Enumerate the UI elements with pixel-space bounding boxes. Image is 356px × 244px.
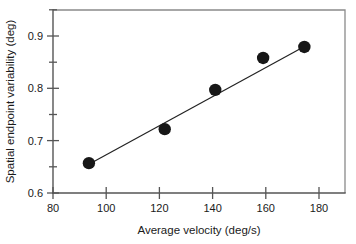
y-tick-label-2: 0.7: [28, 135, 43, 147]
x-tick-label-3: 140: [203, 202, 221, 214]
data-point: [159, 123, 171, 135]
x-tick-label-0: 80: [47, 202, 59, 214]
scatter-plot: 0.9 0.8 0.7 0.6 80 100 120 140 160 180 A…: [0, 0, 356, 244]
y-tick-label-1: 0.8: [28, 82, 43, 94]
x-tick-label-1: 100: [97, 202, 115, 214]
data-point: [257, 52, 269, 64]
data-point: [83, 157, 95, 169]
fit-line: [89, 46, 304, 164]
y-tick-label-0: 0.9: [28, 30, 43, 42]
plot-frame: [53, 10, 345, 193]
x-axis-title: Average velocity (deg/s): [137, 224, 260, 236]
data-point: [209, 84, 221, 96]
y-axis-title: Spatial endpoint variability (deg): [4, 20, 16, 184]
chart-figure: 0.9 0.8 0.7 0.6 80 100 120 140 160 180 A…: [0, 0, 356, 244]
data-point: [298, 41, 310, 53]
x-tick-label-5: 180: [310, 202, 328, 214]
x-tick-label-4: 160: [257, 202, 275, 214]
x-tick-label-2: 120: [150, 202, 168, 214]
y-tick-label-3: 0.6: [28, 187, 43, 199]
